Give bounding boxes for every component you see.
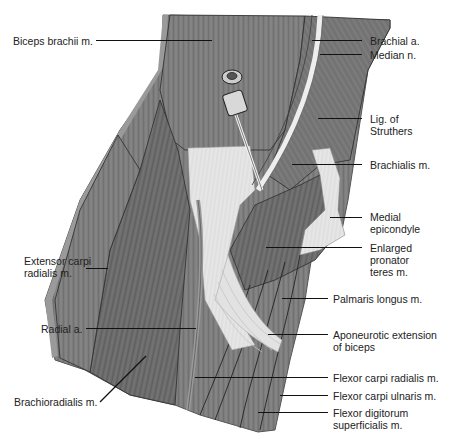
label-median-n: Median n. bbox=[370, 49, 416, 61]
label-flexor-carpi-radialis: Flexor carpi radialis m. bbox=[333, 372, 439, 384]
label-extensor-carpi: Extensor carpi radialis m. bbox=[24, 255, 91, 279]
label-brachialis: Brachialis m. bbox=[370, 159, 430, 171]
label-enlarged-pronator: Enlarged pronator teres m. bbox=[370, 242, 412, 278]
label-flexor-carpi-ulnaris: Flexor carpi ulnaris m. bbox=[333, 390, 436, 402]
leader-lig-struthers bbox=[318, 118, 362, 119]
leader-flexor-carpi-radialis bbox=[195, 377, 328, 378]
label-brachial-a: Brachial a. bbox=[370, 35, 420, 47]
label-brachioradialis: Brachioradialis m. bbox=[14, 396, 97, 408]
label-aponeurotic: Aponeurotic extension of biceps bbox=[333, 329, 437, 353]
label-palmaris-longus: Palmaris longus m. bbox=[333, 293, 422, 305]
leader-flexor-digitorum bbox=[258, 412, 328, 413]
leader-median-n bbox=[320, 54, 362, 55]
label-biceps-brachii: Biceps brachii m. bbox=[13, 35, 93, 47]
leader-flexor-carpi-ulnaris bbox=[280, 395, 328, 396]
leader-aponeurotic bbox=[268, 334, 328, 335]
leader-enlarged-pronator bbox=[266, 247, 362, 248]
leader-brachial-a bbox=[312, 40, 362, 41]
label-flexor-digitorum: Flexor digitorum superficialis m. bbox=[333, 407, 408, 431]
leader-medial-epicondyle bbox=[330, 217, 362, 218]
leader-palmaris-longus bbox=[282, 298, 328, 299]
label-lig-struthers: Lig. of Struthers bbox=[370, 113, 413, 137]
label-medial-epicondyle: Medial epicondyle bbox=[370, 211, 420, 235]
leader-biceps-brachii bbox=[96, 40, 212, 41]
label-radial-a: Radial a. bbox=[41, 323, 82, 335]
leader-radial-a bbox=[86, 328, 196, 329]
leader-brachialis bbox=[292, 164, 362, 165]
